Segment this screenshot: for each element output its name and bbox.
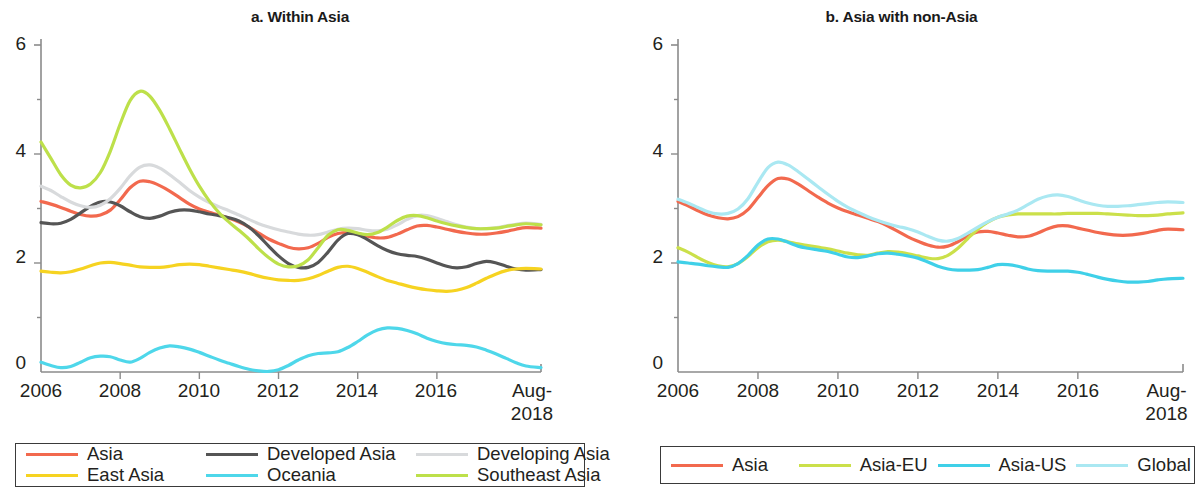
legend-swatch-icon <box>26 453 78 456</box>
legend-swatch-icon <box>416 453 468 456</box>
legend-label: Asia <box>732 456 768 475</box>
panel-a-legend: AsiaDeveloped AsiaDeveloping AsiaEast As… <box>15 443 585 487</box>
legend-swatch-icon <box>416 474 468 477</box>
legend-label: Oceania <box>267 466 336 485</box>
panel-a-plot-area <box>0 0 600 400</box>
legend-swatch-icon <box>206 453 258 456</box>
legend-a-item-southeast-asia[interactable]: Southeast Asia <box>406 466 610 485</box>
legend-b-item-asia-us[interactable]: Asia-US <box>928 456 1067 475</box>
panel-b-xtick-end-line2: 2018 <box>1130 403 1203 425</box>
panel-b-plot-area <box>600 0 1203 400</box>
legend-label: Asia-US <box>999 456 1067 475</box>
legend-b-item-asia-eu[interactable]: Asia-EU <box>789 456 928 475</box>
series-line-developing-asia <box>41 165 541 235</box>
legend-a-item-developing-asia[interactable]: Developing Asia <box>406 445 610 464</box>
legend-label: Asia-EU <box>860 456 928 475</box>
legend-swatch-icon <box>1076 464 1128 467</box>
panel-within-asia: a. Within Asia 6 4 2 0 2006 2008 2010 20… <box>0 0 600 487</box>
legend-b-item-asia[interactable]: Asia <box>661 456 789 475</box>
legend-label: Developed Asia <box>267 445 396 464</box>
panel-a-svg <box>0 0 600 400</box>
legend-a-item-east-asia[interactable]: East Asia <box>16 466 196 485</box>
legend-swatch-icon <box>671 464 723 467</box>
legend-a-item-oceania[interactable]: Oceania <box>196 466 406 485</box>
series-line-asia-eu <box>678 213 1183 267</box>
legend-label: Asia <box>87 445 123 464</box>
legend-a-item-asia[interactable]: Asia <box>16 445 196 464</box>
panel-asia-with-non-asia: b. Asia with non-Asia 6 4 2 0 2006 2008 … <box>600 0 1203 487</box>
legend-label: Global <box>1137 456 1190 475</box>
legend-a-item-developed-asia[interactable]: Developed Asia <box>196 445 406 464</box>
panel-b-svg <box>600 0 1203 400</box>
series-line-developed-asia <box>41 201 541 270</box>
legend-swatch-icon <box>206 474 258 477</box>
series-line-southeast-asia <box>41 91 541 267</box>
panel-b-legend: AsiaAsia-EUAsia-USGlobal <box>660 446 1195 484</box>
panel-a-xtick-end-line2: 2018 <box>489 403 575 425</box>
legend-swatch-icon <box>26 474 78 477</box>
figure-root: a. Within Asia 6 4 2 0 2006 2008 2010 20… <box>0 0 1203 487</box>
legend-label: Developing Asia <box>477 445 610 464</box>
legend-label: Southeast Asia <box>477 466 600 485</box>
series-line-oceania <box>41 328 541 372</box>
legend-label: East Asia <box>87 466 164 485</box>
legend-swatch-icon <box>799 464 851 467</box>
legend-b-item-global[interactable]: Global <box>1066 456 1194 475</box>
legend-swatch-icon <box>938 464 990 467</box>
